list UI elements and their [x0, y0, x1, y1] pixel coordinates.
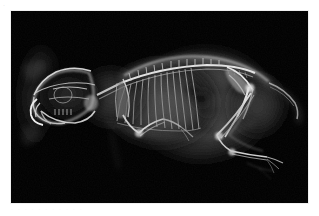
radiograph-frame[interactable] — [11, 11, 308, 203]
corner-mark: · — [3, 1, 11, 9]
image-caption: · · · · · · · · · · · — [11, 204, 308, 214]
page-canvas: · — [0, 0, 319, 216]
radiograph-image — [11, 11, 308, 203]
